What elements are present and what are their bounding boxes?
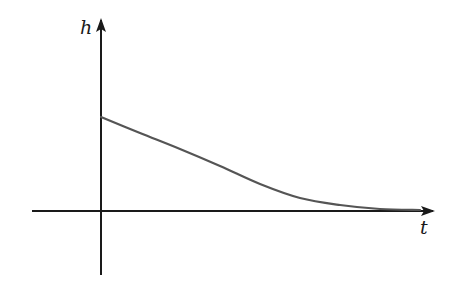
h-axis-label: h bbox=[80, 18, 92, 37]
h-vs-t-diagram bbox=[0, 0, 456, 294]
t-axis-label: t bbox=[420, 218, 428, 237]
h-curve bbox=[101, 117, 420, 210]
